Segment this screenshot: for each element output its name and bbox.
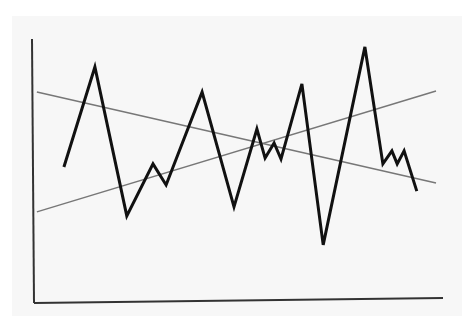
y-axis	[32, 39, 34, 303]
falling-trendline-line	[37, 92, 436, 183]
volatile-series-line	[64, 47, 417, 245]
x-axis	[34, 298, 443, 303]
line-chart	[0, 0, 474, 323]
